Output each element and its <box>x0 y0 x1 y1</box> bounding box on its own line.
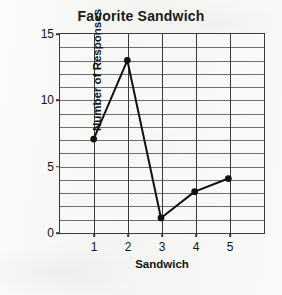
plot-area: Number of Responses Sandwich 05101512345 <box>59 33 265 234</box>
y-axis-tick-label: 5 <box>47 160 54 174</box>
chart-title: Favorite Sandwich <box>0 8 282 24</box>
x-axis-tick-label: 3 <box>159 240 166 254</box>
favorite-sandwich-line-chart: Favorite Sandwich Number of Responses Sa… <box>0 0 282 295</box>
y-axis-title: Number of Responses <box>91 0 103 145</box>
x-axis-tick-label: 5 <box>227 240 234 254</box>
data-point-marker <box>158 215 165 222</box>
x-axis-tick-label: 2 <box>125 240 132 254</box>
x-axis-tick-mark <box>93 233 95 237</box>
x-axis-tick-mark <box>229 233 231 237</box>
y-axis-tick-mark <box>56 232 60 234</box>
x-axis-tick-mark <box>127 233 129 237</box>
y-axis-tick-label: 10 <box>41 93 54 107</box>
data-line <box>94 60 229 218</box>
y-axis-tick-mark <box>56 100 60 102</box>
x-axis-tick-label: 1 <box>91 240 98 254</box>
data-point-marker <box>191 188 198 195</box>
x-axis-tick-label: 4 <box>193 240 200 254</box>
data-point-marker <box>124 57 131 64</box>
data-point-marker <box>225 175 232 182</box>
y-axis-tick-mark <box>56 166 60 168</box>
y-axis-tick-mark <box>56 33 60 35</box>
x-axis-title: Sandwich <box>60 258 264 270</box>
x-axis-tick-mark <box>195 233 197 237</box>
y-axis-tick-label: 0 <box>47 226 54 240</box>
y-axis-tick-label: 15 <box>41 27 54 41</box>
x-axis-tick-mark <box>161 233 163 237</box>
